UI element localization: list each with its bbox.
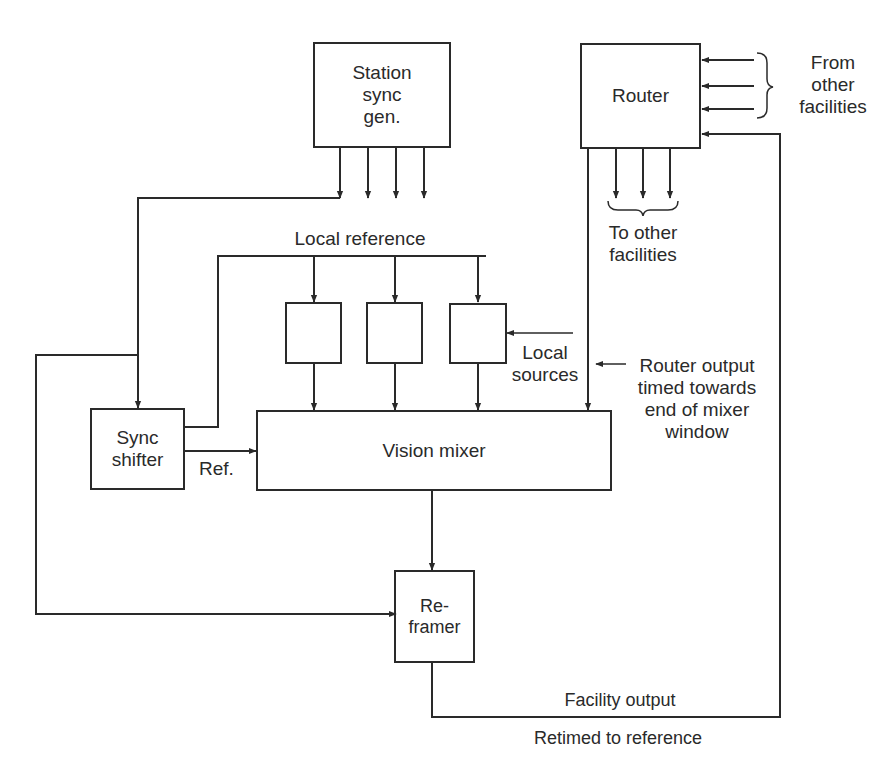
from-other-facilities-label: From other facilities [778,52,888,118]
router-block: Router [580,43,701,149]
local-sources-label: Local sources [505,342,585,386]
local-reference-label: Local reference [270,228,450,250]
reframer-label: Re- framer [408,596,460,637]
vision-mixer-label: Vision mixer [382,440,485,462]
facility-output-label: Facility output [530,690,710,711]
to-other-facilities-label: To other facilities [592,222,694,266]
station-sync-gen-label: Station sync gen. [352,62,411,128]
sync-shifter-label: Sync shifter [112,427,164,471]
vision-mixer-block: Vision mixer [256,410,612,491]
ref-label: Ref. [199,458,244,480]
station-sync-generator-block: Station sync gen. [313,42,451,148]
router-output-note-label: Router output timed towards end of mixer… [622,355,772,442]
retimed-to-reference-label: Retimed to reference [498,728,738,749]
sync-shifter-block: Sync shifter [90,408,185,490]
local-source-box-1 [285,302,342,364]
router-label: Router [612,85,669,107]
local-source-box-3 [449,303,507,364]
local-source-box-2 [366,302,423,364]
reframer-block: Re- framer [394,570,475,663]
